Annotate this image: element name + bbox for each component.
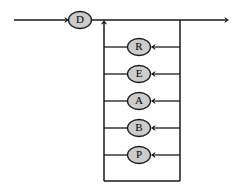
node-label: R (135, 40, 143, 52)
node-a[interactable]: A (128, 93, 151, 110)
node-p[interactable]: P (128, 147, 151, 164)
row-p-arrowhead (151, 152, 156, 158)
diagram-canvas: DREABP (0, 0, 239, 195)
node-label: E (136, 67, 143, 79)
node-label: P (136, 148, 142, 160)
flow-diagram: DREABP (0, 0, 239, 195)
node-r[interactable]: R (128, 39, 151, 56)
row-r-arrowhead (151, 44, 156, 50)
row-b-arrowhead (151, 125, 156, 131)
exit-arrowhead (224, 17, 229, 23)
diagram-nodes: DREABP (69, 12, 151, 164)
node-label: A (135, 94, 143, 106)
node-e[interactable]: E (128, 66, 151, 83)
node-label: D (76, 13, 84, 25)
row-e-arrowhead (151, 71, 156, 77)
row-a-arrowhead (151, 98, 156, 104)
node-d[interactable]: D (69, 12, 92, 29)
node-b[interactable]: B (128, 120, 151, 137)
diagram-edges (14, 17, 229, 181)
node-label: B (135, 121, 142, 133)
